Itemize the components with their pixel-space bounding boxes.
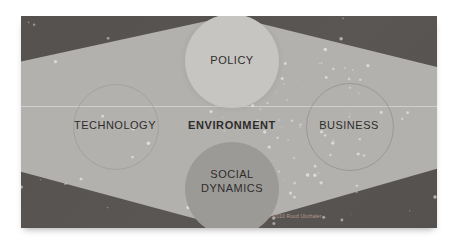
social-dynamics-circle: SOCIAL DYNAMICS	[185, 142, 279, 228]
business-label: BUSINESS	[306, 119, 392, 133]
environment-label: ENVIRONMENT	[177, 119, 287, 133]
policy-circle: POLICY	[185, 16, 279, 108]
copyright-text: © 2010 Ruud Uluthaler	[268, 214, 322, 219]
technology-label: TECHNOLOGY	[73, 119, 157, 133]
policy-label: POLICY	[210, 54, 253, 68]
diagram-canvas: POLICY TECHNOLOGY ENVIRONMENT BUSINESS S…	[21, 16, 437, 228]
screenshot-page: POLICY TECHNOLOGY ENVIRONMENT BUSINESS S…	[0, 0, 459, 244]
social-dynamics-label: SOCIAL DYNAMICS	[197, 168, 267, 196]
